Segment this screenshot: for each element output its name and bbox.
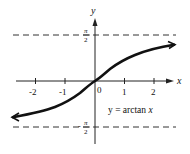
tick-label-0: 0 [97,85,102,95]
tick-label-2: 2 [151,87,156,97]
y-axis-arrow-icon [93,18,98,26]
function-label-prefix: y = arctan [108,105,148,115]
function-label: y = arctan x [108,105,153,115]
tick-label-1: 1 [122,87,127,97]
svg-text:2: 2 [84,128,88,136]
x-axis-arrow-icon [166,79,174,84]
svg-text:-: - [78,122,81,131]
svg-text:π: π [84,27,88,35]
tick-label-neg1: -1 [59,87,67,97]
svg-text:2: 2 [84,36,88,44]
tick-label-neg2: -2 [29,87,37,97]
x-axis-label: x [176,75,182,86]
arctan-graph: y x -2 -1 0 1 2 π 2 - π 2 y = arctan x [0,0,190,154]
y-axis-label: y [90,5,96,16]
function-label-var: x [147,105,153,115]
svg-text:π: π [84,119,88,127]
